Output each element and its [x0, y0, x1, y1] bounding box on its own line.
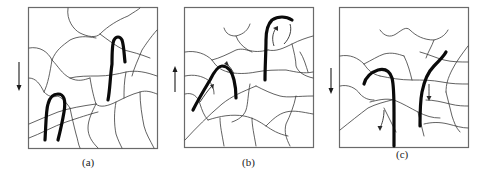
- panel-label-b: (b): [242, 156, 255, 169]
- panel-label-c: (c): [396, 148, 409, 161]
- panel-a: (a): [17, 8, 158, 170]
- force-arrow-down-icon: [17, 62, 22, 91]
- force-arrow-down-icon: [329, 68, 334, 94]
- figure: (a): [0, 0, 485, 174]
- force-arrow-up-icon: [173, 66, 178, 92]
- panel-b: (b): [173, 8, 314, 170]
- panel-label-a: (a): [82, 156, 95, 169]
- panel-c: (c): [329, 8, 469, 162]
- panel-frame: [29, 8, 158, 149]
